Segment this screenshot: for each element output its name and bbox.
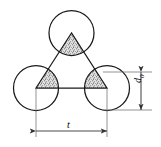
dimension-label-d0: d0 [133, 75, 146, 84]
figure-canvas [0, 0, 161, 147]
dimension-label-d0-subscript: 0 [138, 75, 146, 79]
dimension-label-d0-base: d [132, 78, 143, 83]
neck-wedges [36, 33, 107, 88]
dimension-label-t: t [67, 120, 70, 130]
sintering-neck-figure: t d0 [0, 0, 161, 147]
particle-circles [14, 11, 130, 111]
